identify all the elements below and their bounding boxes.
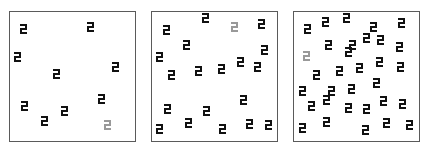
glyph-icon [343,13,350,23]
glyph-icon [323,117,330,127]
glyph-icon [87,22,94,32]
glyph-icon [164,104,171,114]
glyph-icon [348,84,355,94]
glyph-icon [61,106,68,116]
glyph-icon [383,118,390,128]
glyph-icon [254,62,261,72]
glyph-icon [363,33,370,43]
glyph-icon [345,103,352,113]
search-panel-2 [151,11,278,142]
glyph-icon [237,57,244,67]
odd-glyph-icon [231,22,238,32]
glyph-icon [336,66,343,76]
glyph-icon [20,24,27,34]
glyph-icon [376,57,383,67]
glyph-icon [313,70,320,80]
glyph-icon [396,42,403,52]
glyph-icon [356,63,363,73]
glyph-icon [373,78,380,88]
glyph-icon [323,95,330,105]
glyph-icon [41,116,48,126]
glyph-icon [98,94,105,104]
glyph-icon [240,95,247,105]
glyph-icon [163,25,170,35]
glyph-icon [261,45,268,55]
glyph-icon [398,18,405,28]
glyph-icon [362,125,369,135]
odd-glyph-icon [104,120,111,130]
glyph-icon [21,101,28,111]
glyph-icon [258,19,265,29]
glyph-icon [345,47,352,57]
glyph-icon [380,96,387,106]
glyph-icon [299,123,306,133]
glyph-icon [397,62,404,72]
glyph-icon [218,64,225,74]
glyph-icon [265,120,272,130]
glyph-icon [14,52,21,62]
glyph-icon [406,120,413,130]
glyph-icon [370,22,377,32]
glyph-icon [195,66,202,76]
glyph-icon [246,119,253,129]
glyph-icon [156,124,163,134]
search-panel-1 [9,11,136,142]
odd-glyph-icon [303,51,310,61]
glyph-icon [325,40,332,50]
glyph-icon [183,40,190,50]
glyph-icon [156,52,163,62]
glyph-icon [363,104,370,114]
glyph-icon [202,13,209,23]
glyph-icon [322,17,329,27]
glyph-icon [53,69,60,79]
glyph-icon [203,106,210,116]
glyph-icon [399,99,406,109]
glyph-icon [168,70,175,80]
glyph-icon [377,35,384,45]
search-panel-3 [293,11,420,142]
glyph-icon [308,101,315,111]
glyph-icon [219,124,226,134]
glyph-icon [185,118,192,128]
glyph-icon [304,24,311,34]
glyph-icon [299,86,306,96]
glyph-icon [112,62,119,72]
